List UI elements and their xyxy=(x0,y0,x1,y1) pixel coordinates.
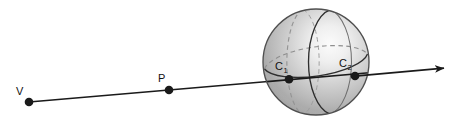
label-p: P xyxy=(158,72,165,84)
point-p-dot[interactable] xyxy=(165,86,174,95)
label-c1-subscript: 1 xyxy=(284,66,288,75)
ray-line-group xyxy=(29,82,268,103)
point-v-dot[interactable] xyxy=(25,98,34,107)
point-c2-dot[interactable] xyxy=(351,72,360,81)
label-v: V xyxy=(16,85,24,97)
ray-sphere-diagram: V P C 1 C 2 xyxy=(0,0,466,123)
label-c2-subscript: 2 xyxy=(348,63,352,72)
point-c1-dot[interactable] xyxy=(285,75,294,84)
figure-canvas: V P C 1 C 2 xyxy=(0,0,466,123)
ray-line-segment-back xyxy=(29,82,268,103)
label-c1: C xyxy=(275,60,283,72)
label-c2: C xyxy=(339,57,347,69)
